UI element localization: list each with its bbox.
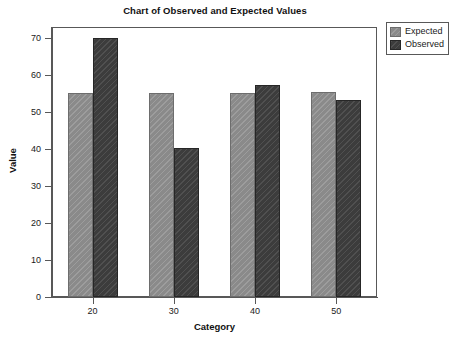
- y-tick-mark: [45, 75, 51, 76]
- y-tick-label: 0: [0, 292, 41, 302]
- x-tick-mark: [255, 298, 256, 304]
- chart-title: Chart of Observed and Expected Values: [52, 5, 378, 16]
- y-tick-mark: [45, 186, 51, 187]
- bar-expected-20[interactable]: [68, 93, 93, 297]
- x-tick-label: 30: [169, 306, 179, 316]
- y-tick-label: 10: [0, 255, 41, 265]
- plot-area: [52, 27, 377, 297]
- y-tick-label: 20: [0, 218, 41, 228]
- y-tick-label: 50: [0, 107, 41, 117]
- bar-observed-40[interactable]: [255, 85, 280, 297]
- bar-observed-20[interactable]: [93, 38, 118, 297]
- y-tick-mark: [45, 223, 51, 224]
- y-tick-mark: [45, 149, 51, 150]
- y-tick-mark: [45, 260, 51, 261]
- legend-item-expected[interactable]: Expected: [390, 25, 444, 38]
- legend-swatch-observed-icon: [390, 40, 401, 50]
- bar-expected-30[interactable]: [149, 93, 174, 297]
- x-tick-label: 40: [250, 306, 260, 316]
- legend-swatch-expected-icon: [390, 27, 401, 37]
- x-tick-mark: [336, 298, 337, 304]
- y-tick-label: 70: [0, 33, 41, 43]
- y-axis-title: Value: [7, 136, 18, 186]
- legend-label-observed: Observed: [405, 39, 444, 50]
- bar-expected-50[interactable]: [311, 92, 336, 297]
- x-axis-line: [45, 297, 378, 298]
- x-tick-mark: [174, 298, 175, 304]
- x-axis-title: Category: [52, 321, 377, 332]
- y-tick-mark: [45, 297, 51, 298]
- y-axis-line: [51, 27, 52, 298]
- x-tick-label: 20: [88, 306, 98, 316]
- y-tick-mark: [45, 38, 51, 39]
- y-tick-label: 60: [0, 70, 41, 80]
- chart-legend: Expected Observed: [386, 22, 449, 55]
- x-tick-mark: [93, 298, 94, 304]
- legend-label-expected: Expected: [405, 26, 443, 37]
- bar-expected-40[interactable]: [230, 93, 255, 297]
- x-tick-label: 50: [331, 306, 341, 316]
- bar-observed-30[interactable]: [174, 148, 199, 297]
- bar-observed-50[interactable]: [336, 100, 361, 298]
- y-tick-mark: [45, 112, 51, 113]
- chart-root: Chart of Observed and Expected Values 01…: [0, 0, 466, 346]
- legend-item-observed[interactable]: Observed: [390, 38, 444, 51]
